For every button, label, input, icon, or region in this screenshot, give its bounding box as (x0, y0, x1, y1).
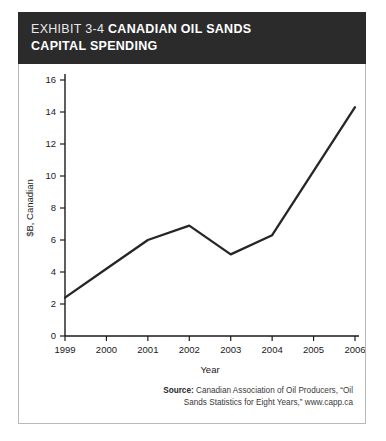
source-text-1: Canadian Association of Oil Producers, “… (196, 386, 353, 395)
x-tick-label: 2006 (344, 344, 365, 355)
x-tick-label: 2002 (179, 344, 200, 355)
data-series-line (65, 107, 355, 297)
x-tick-label: 2000 (96, 344, 117, 355)
line-chart-svg: 0246810121416 19992000200120022003200420… (19, 64, 365, 382)
x-axis-title: Year (200, 364, 219, 375)
header-first-line: EXHIBIT 3-4 CANADIAN OIL SANDS (31, 21, 353, 38)
y-tick-label: 14 (45, 106, 56, 117)
plot-area: 0246810121416 19992000200120022003200420… (19, 64, 365, 382)
y-tick-label: 2 (51, 298, 56, 309)
y-tick-label: 0 (51, 330, 56, 341)
exhibit-number: EXHIBIT 3-4 (31, 22, 104, 36)
x-tick-label: 1999 (54, 344, 75, 355)
y-axis-title: $B, Canadian (24, 179, 35, 237)
x-tick-label: 2001 (137, 344, 158, 355)
y-tick-label: 8 (51, 202, 56, 213)
y-tick-label: 6 (51, 234, 56, 245)
x-tick-label: 2005 (303, 344, 324, 355)
x-axis-ticks: 19992000200120022003200420052006 (54, 336, 365, 355)
y-tick-label: 12 (45, 138, 56, 149)
source-label: Source: (163, 386, 193, 395)
x-tick-label: 2003 (220, 344, 241, 355)
y-tick-label: 10 (45, 170, 56, 181)
y-axis-ticks: 0246810121416 (45, 74, 65, 341)
x-tick-label: 2004 (262, 344, 283, 355)
exhibit-title-line-2: CAPITAL SPENDING (31, 38, 353, 55)
exhibit-header: EXHIBIT 3-4 CANADIAN OIL SANDS CAPITAL S… (18, 12, 366, 64)
source-line-1: Source: Canadian Association of Oil Prod… (19, 385, 353, 398)
y-tick-label: 16 (45, 74, 56, 85)
source-note: Source: Canadian Association of Oil Prod… (19, 385, 353, 410)
exhibit-figure: EXHIBIT 3-4 CANADIAN OIL SANDS CAPITAL S… (18, 12, 366, 424)
y-tick-label: 4 (51, 266, 56, 277)
exhibit-title-line-1: CANADIAN OIL SANDS (108, 22, 251, 36)
chart-panel: 0246810121416 19992000200120022003200420… (18, 64, 366, 424)
source-line-2: Sands Statistics for Eight Years,” www.c… (19, 397, 353, 410)
